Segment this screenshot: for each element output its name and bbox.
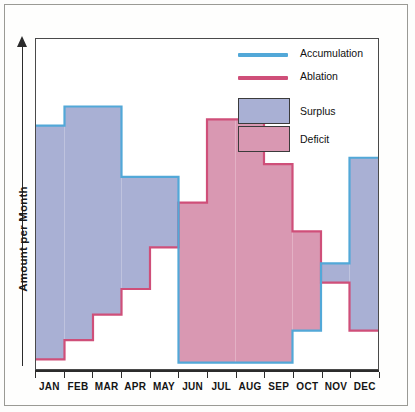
x-axis-label-dec: DEC <box>350 381 379 392</box>
x-axis-label-may: MAY <box>150 381 179 392</box>
deficit-fill-region <box>179 203 208 363</box>
legend-label-surplus: Surplus <box>300 105 336 117</box>
legend-item-deficit: Deficit <box>238 126 373 154</box>
y-axis-title: Amount per Month <box>17 169 29 309</box>
x-axis-tick <box>92 372 93 378</box>
x-axis-tick <box>64 372 65 378</box>
surplus-swatch-icon <box>238 98 290 124</box>
deficit-swatch-icon <box>238 126 290 152</box>
x-axis-tick <box>264 372 265 378</box>
deficit-fill-region <box>236 119 265 362</box>
legend: Accumulation Ablation Surplus Deficit <box>238 44 373 154</box>
x-axis-tick <box>322 372 323 378</box>
x-axis-label-apr: APR <box>121 381 150 392</box>
x-axis-label-oct: OCT <box>293 381 322 392</box>
surplus-fill-region <box>93 107 122 315</box>
x-axis-tick <box>207 372 208 378</box>
surplus-fill-region <box>150 177 179 247</box>
x-axis-label-jun: JUN <box>178 381 207 392</box>
x-axis-label-feb: FEB <box>64 381 93 392</box>
surplus-fill-region <box>350 158 379 331</box>
ablation-line-icon <box>238 76 288 80</box>
surplus-fill-region <box>65 107 94 341</box>
legend-label-ablation: Ablation <box>300 70 338 82</box>
x-axis-label-aug: AUG <box>236 381 265 392</box>
x-axis-tick <box>293 372 294 378</box>
legend-label-accumulation: Accumulation <box>300 47 363 59</box>
deficit-fill-region <box>207 119 236 362</box>
deficit-fill-region <box>264 164 293 362</box>
x-axis-tick <box>178 372 179 378</box>
legend-item-accumulation: Accumulation <box>238 44 373 67</box>
deficit-fill-region <box>293 231 322 330</box>
accumulation-line-icon <box>238 53 288 57</box>
legend-item-surplus: Surplus <box>238 98 373 126</box>
surplus-fill-region <box>36 126 65 360</box>
x-axis-tick <box>150 372 151 378</box>
legend-item-ablation: Ablation <box>238 67 373 90</box>
x-axis-tick <box>379 372 380 378</box>
x-axis-tick <box>35 372 36 378</box>
legend-label-deficit: Deficit <box>300 133 329 145</box>
x-axis-label-jan: JAN <box>35 381 64 392</box>
x-axis-label-sep: SEP <box>264 381 293 392</box>
surplus-fill-region <box>321 263 350 282</box>
x-axis-tick <box>350 372 351 378</box>
surplus-fill-region <box>122 177 151 289</box>
x-axis-tick <box>236 372 237 378</box>
glacier-mass-balance-figure: Amount per Month JANFEBMARAPRMAYJUNJULAU… <box>0 0 415 412</box>
x-axis-label-jul: JUL <box>207 381 236 392</box>
x-axis-tick <box>121 372 122 378</box>
x-axis-label-nov: NOV <box>322 381 351 392</box>
x-axis-label-mar: MAR <box>92 381 121 392</box>
